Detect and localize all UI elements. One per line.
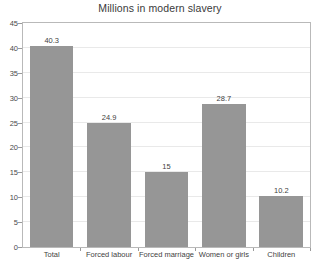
y-axis-tick-mark (18, 48, 22, 49)
bar-value-label: 24.9 (80, 113, 137, 122)
x-axis-labels: TotalForced labourForced marriageWomen o… (23, 250, 310, 270)
y-axis-tick-label: 30 (2, 93, 18, 102)
x-axis-tick-mark (138, 248, 139, 251)
y-axis-tick-mark (18, 123, 22, 124)
bar[interactable] (30, 46, 74, 247)
chart-title: Millions in modern slavery (0, 2, 320, 14)
bar-value-label: 10.2 (253, 186, 310, 195)
y-axis-tick-label: 15 (2, 168, 18, 177)
y-axis-tick-mark (18, 222, 22, 223)
y-axis-tick-mark (18, 172, 22, 173)
y-axis-tick-label: 20 (2, 143, 18, 152)
bar-group: 10.2 (253, 23, 310, 247)
y-axis-tick-label: 35 (2, 68, 18, 77)
y-axis-tick-mark (18, 73, 22, 74)
y-axis-tick-label: 10 (2, 193, 18, 202)
bar-value-label: 28.7 (195, 94, 252, 103)
x-axis-tick-label: Children (253, 250, 310, 259)
x-axis-tick-label: Forced labour (80, 250, 137, 259)
x-axis-tick-mark (80, 248, 81, 251)
bar-value-label: 15 (138, 162, 195, 171)
bar-chart: Millions in modern slavery 0510152025303… (0, 0, 320, 276)
x-axis-tick-mark (310, 248, 311, 251)
y-axis-tick-label: 40 (2, 43, 18, 52)
bar[interactable] (87, 123, 131, 247)
y-axis-tick-label: 0 (2, 243, 18, 252)
bar[interactable] (202, 104, 246, 247)
bar-value-label: 40.3 (23, 36, 80, 45)
x-axis-tick-label: Total (23, 250, 80, 259)
y-axis-tick-label: 5 (2, 218, 18, 227)
bar-group: 28.7 (195, 23, 252, 247)
bar-group: 40.3 (23, 23, 80, 247)
bar-group: 24.9 (80, 23, 137, 247)
y-axis-tick-label: 45 (2, 19, 18, 28)
bars-group: 40.324.91528.710.2 (23, 23, 310, 247)
y-axis-tick-mark (18, 197, 22, 198)
y-axis-tick-mark (18, 147, 22, 148)
x-axis-tick-mark (253, 248, 254, 251)
y-axis-tick-label: 25 (2, 118, 18, 127)
y-axis-tick-mark (18, 247, 22, 248)
x-axis-tick-label: Forced marriage (138, 250, 195, 259)
x-axis-tick-label: Women or girls (195, 250, 252, 259)
bar-group: 15 (138, 23, 195, 247)
x-axis-tick-mark (195, 248, 196, 251)
y-axis-tick-mark (18, 98, 22, 99)
bar[interactable] (259, 196, 303, 247)
bar[interactable] (145, 172, 189, 247)
y-axis-tick-mark (18, 23, 22, 24)
